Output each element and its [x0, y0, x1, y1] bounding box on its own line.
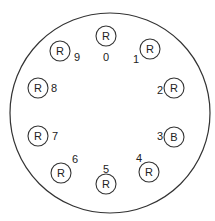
- node-index: 5: [103, 163, 109, 175]
- node-letter: R: [56, 45, 64, 57]
- node-letter: R: [34, 130, 42, 142]
- node-letter: R: [57, 167, 65, 179]
- node-index: 6: [72, 153, 78, 165]
- node-letter: R: [170, 82, 178, 94]
- node-index: 8: [51, 82, 57, 94]
- node-5: R5: [96, 163, 116, 194]
- node-index: 0: [103, 51, 109, 63]
- node-0: R0: [96, 26, 116, 63]
- node-letter: R: [102, 30, 110, 42]
- ring-diagram: R0R1R2B3R4R5R6R7R8R9: [0, 0, 215, 221]
- node-index: 7: [52, 130, 58, 142]
- node-index: 4: [136, 152, 142, 164]
- node-index: 2: [157, 84, 163, 96]
- node-4: R4: [136, 152, 159, 182]
- node-7: R7: [28, 126, 58, 146]
- outer-ring: [10, 13, 210, 213]
- node-6: R6: [51, 153, 78, 183]
- node-letter: R: [34, 82, 42, 94]
- node-index: 9: [74, 51, 80, 63]
- node-9: R9: [50, 41, 80, 63]
- node-letter: R: [146, 43, 154, 55]
- node-index: 3: [157, 130, 163, 142]
- node-2: R2: [157, 78, 184, 98]
- node-letter: R: [102, 178, 110, 190]
- node-3: B3: [157, 127, 184, 147]
- node-letter: B: [170, 131, 177, 143]
- node-letter: R: [145, 166, 153, 178]
- node-1: R1: [133, 39, 160, 65]
- node-8: R8: [28, 78, 57, 98]
- node-index: 1: [133, 53, 139, 65]
